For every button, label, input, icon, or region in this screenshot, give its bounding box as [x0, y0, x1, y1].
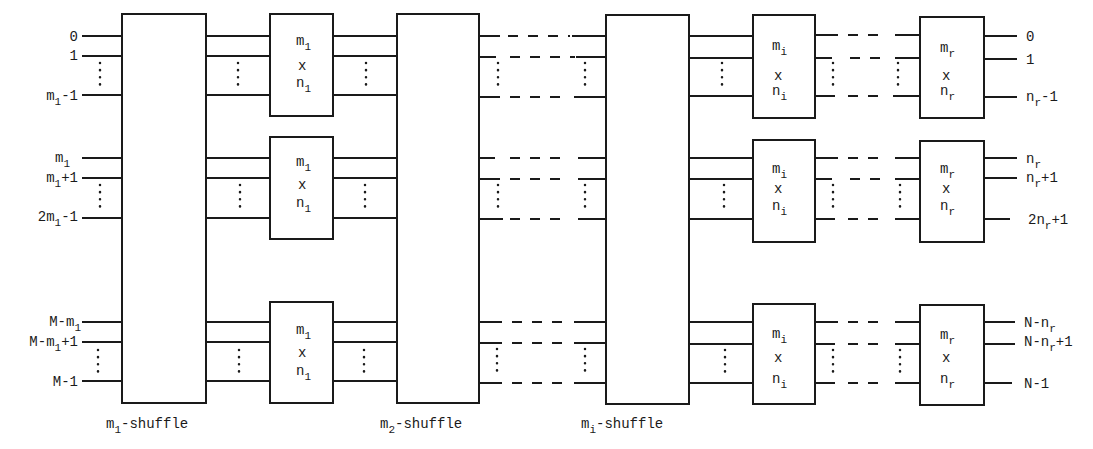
output-labels: 0 1 nr-1 nr nr+1 2nr+1 N-nr N-nr+1 N-1 — [1024, 29, 1073, 392]
dashed-wires-switchi-to-switchr — [815, 35, 920, 383]
switch-label-x: x — [942, 181, 950, 197]
input-label: m1-1 — [46, 88, 78, 108]
switch-label-x: x — [774, 68, 782, 84]
switch-label-x: x — [942, 350, 950, 366]
switch-label-x: x — [298, 345, 306, 361]
input-label: 0 — [70, 29, 78, 45]
switch-mixni-mid — [753, 140, 815, 242]
switch-labels-m1xn1: m1 x n1 m1 x n1 m1 x n1 — [296, 33, 311, 383]
switch-label-x: x — [774, 350, 782, 366]
input-label: M-m1 — [49, 314, 81, 334]
input-label: 2m1-1 — [38, 209, 78, 229]
wires-stagei-to-switchi — [689, 36, 753, 383]
stage-caption-m1-shuffle: m1-shuffle — [106, 416, 188, 436]
output-label: N-nr — [1024, 315, 1056, 335]
output-label: nr — [1026, 151, 1041, 171]
output-label: N-1 — [1024, 376, 1049, 392]
output-label: N-nr+1 — [1024, 334, 1073, 354]
output-label: nr+1 — [1026, 170, 1058, 190]
stage-caption-m2-shuffle: m2-shuffle — [380, 416, 462, 436]
output-label: 0 — [1026, 29, 1034, 45]
switch-label-x: x — [942, 68, 950, 84]
m2-shuffle-box — [397, 14, 479, 403]
input-label: M-m1+1 — [29, 334, 78, 354]
input-label: m1+1 — [46, 170, 78, 190]
wires-switch1-to-stage2 — [333, 36, 397, 381]
dashed-wires-stage2-to-stagei — [479, 36, 606, 383]
input-label: M-1 — [53, 374, 78, 390]
input-label: 1 — [70, 48, 78, 64]
stage-caption-mi-shuffle: mi-shuffle — [581, 416, 663, 436]
mi-shuffle-box — [606, 15, 689, 404]
input-labels: 0 1 m1-1 m1 m1+1 2m1-1 M-m1 M-m1+1 M-1 — [29, 29, 81, 390]
switch-label-x: x — [298, 177, 306, 193]
output-label: nr-1 — [1026, 89, 1058, 109]
output-wires — [984, 36, 1017, 383]
shuffle-network-diagram: 0 1 m1-1 m1 m1+1 2m1-1 M-m1 M-m1+1 M-1 0… — [0, 0, 1093, 449]
switch-label-x: x — [774, 181, 782, 197]
switch-mrxnr-mid — [920, 141, 984, 242]
input-wires — [82, 36, 122, 381]
output-label: 2nr+1 — [1028, 212, 1068, 232]
m1-shuffle-box — [122, 14, 206, 403]
wires-stage1-to-switch1 — [206, 36, 270, 381]
stage-captions: m1-shuffle m2-shuffle mi-shuffle — [106, 416, 663, 436]
output-label: 1 — [1026, 52, 1034, 68]
switch-label-x: x — [298, 58, 306, 74]
input-label: m1 — [55, 150, 70, 170]
